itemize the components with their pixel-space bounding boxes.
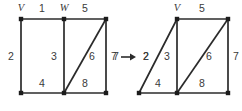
edge-label-7: 7 — [233, 50, 239, 62]
vertex-bl — [19, 91, 23, 95]
vertex-tl — [175, 17, 179, 21]
vertex-label-V: V — [18, 2, 26, 13]
vertex-tr — [226, 17, 230, 21]
arrow-head-icon — [130, 53, 136, 60]
edge-label-1: 1 — [39, 2, 45, 14]
vertex-bm — [62, 91, 66, 95]
right-graph-edge-labels: 5237486 — [143, 2, 239, 89]
vertex-br — [104, 91, 108, 95]
edge-label-6: 6 — [89, 50, 95, 62]
edge-label-4: 4 — [39, 77, 45, 89]
edge-label-2: 2 — [143, 50, 149, 62]
edge-label-8: 8 — [82, 77, 88, 89]
edge-label-3: 3 — [51, 50, 57, 62]
edge-label-4: 4 — [155, 77, 161, 89]
vertex-tr — [104, 17, 108, 21]
vertex-tl — [19, 17, 23, 21]
edge-label-5: 5 — [82, 2, 88, 14]
edge-label-2: 2 — [8, 50, 14, 62]
graph-transformation-diagram: 15237486 VW 7 2 5237486 V — [0, 0, 242, 111]
vertex-tm — [62, 17, 66, 21]
vertex-bm — [175, 91, 179, 95]
vertex-label-V: V — [174, 2, 182, 13]
edge-label-6: 6 — [206, 50, 212, 62]
vertex-br — [226, 91, 230, 95]
edge-label-3: 3 — [164, 50, 170, 62]
right-graph-vertex-labels: V — [174, 2, 182, 13]
edge-label-5: 5 — [199, 2, 205, 14]
arrow-left-label: 7 — [111, 50, 117, 62]
vertex-label-W: W — [60, 2, 70, 13]
diagram-canvas: 15237486 VW 7 2 5237486 V — [0, 0, 242, 111]
vertex-bl — [137, 91, 141, 95]
edge-label-8: 8 — [199, 77, 205, 89]
right-graph: 5237486 V — [137, 2, 239, 95]
right-graph-edges — [139, 19, 228, 93]
left-graph: 15237486 VW — [8, 2, 119, 95]
